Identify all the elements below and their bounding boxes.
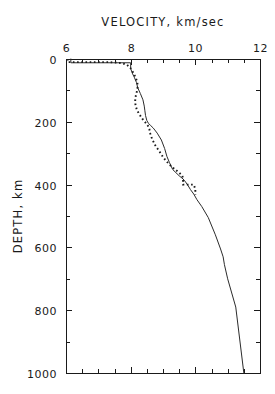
y-axis-title: DEPTH, km <box>11 179 25 254</box>
y-tick-label: 600 <box>35 242 58 255</box>
series-solid-model <box>71 59 244 373</box>
x-tick-label: 8 <box>128 42 136 55</box>
chart-canvas: 681012 02004006008001000 VELOCITY, km/se… <box>0 0 275 394</box>
x-tick-label: 10 <box>188 42 203 55</box>
series-dotted-model <box>68 59 196 195</box>
y-axis-tick-labels: 02004006008001000 <box>27 54 57 381</box>
data-series-layer <box>68 59 244 373</box>
y-tick-label: 0 <box>50 54 58 67</box>
velocity-depth-figure: 681012 02004006008001000 VELOCITY, km/se… <box>0 0 275 394</box>
y-tick-label: 400 <box>35 180 58 193</box>
y-axis-ticks-right <box>254 60 260 374</box>
y-tick-label: 200 <box>35 117 58 130</box>
x-axis-ticks-bottom <box>67 367 261 373</box>
y-tick-label: 1000 <box>27 368 57 381</box>
y-tick-label: 800 <box>35 305 58 318</box>
plot-frame <box>66 59 260 373</box>
x-tick-label: 12 <box>253 42 268 55</box>
x-axis-title: VELOCITY, km/sec <box>101 15 224 29</box>
y-axis-ticks-left <box>66 60 72 374</box>
x-tick-label: 6 <box>63 42 71 55</box>
x-axis-tick-labels: 681012 <box>63 42 268 55</box>
x-axis-ticks-top <box>67 59 261 65</box>
